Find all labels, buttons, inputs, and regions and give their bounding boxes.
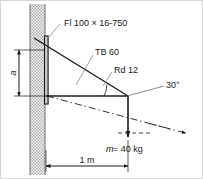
angle-arc xyxy=(104,85,107,96)
label-flat-plate: Fl 100 × 16-750 xyxy=(64,18,127,28)
label-tie-bar: TB 60 xyxy=(95,47,119,57)
leader-flat-plate xyxy=(48,24,60,38)
wall-hatching xyxy=(30,4,45,175)
label-angle: 30° xyxy=(166,80,180,90)
leader-angle xyxy=(127,86,164,96)
diagram-canvas: a 1 m Fl 100 × 16-750 TB 60 Rd 12 30° m … xyxy=(0,0,203,179)
leader-lines xyxy=(48,24,164,96)
resultant-arrow xyxy=(150,124,186,134)
label-round-bar: Rd 12 xyxy=(114,65,138,75)
label-mass-group: m = 40 kg xyxy=(106,144,143,154)
construction-lines xyxy=(47,96,186,133)
leader-tie-bar xyxy=(76,55,93,85)
wall xyxy=(30,4,45,175)
label-mass-value: = 40 kg xyxy=(113,144,143,154)
dimension-span-label: 1 m xyxy=(79,155,94,165)
engineering-diagram: a 1 m Fl 100 × 16-750 TB 60 Rd 12 30° m … xyxy=(0,0,203,179)
dimension-a-label: a xyxy=(8,70,18,75)
